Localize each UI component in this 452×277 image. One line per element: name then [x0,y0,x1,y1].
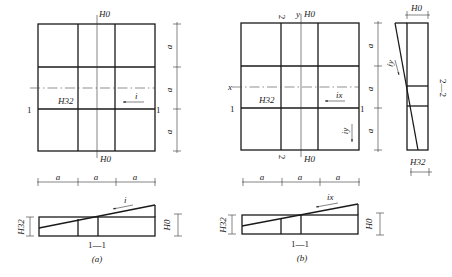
dimension-right-b [374,21,382,152]
section-2-2-b [395,11,432,176]
label-slope-ix-b: ix [336,90,343,100]
dim-b-right-2: a [365,86,375,91]
section-mark-1-right-b: 1 [360,104,365,114]
section-title-a: 1—1 [88,240,106,250]
dim-a-bottom-3: a [133,172,138,182]
section-1-1-a [26,205,182,236]
plan-grid-a [30,15,155,158]
label-slope-i-a: i [135,91,138,101]
caption-a: (a) [92,254,103,264]
dim-b-right-3: a [365,128,375,133]
section-mark-1-left-b: 1 [230,104,235,114]
label-h32-a: H32 [57,96,74,106]
section-mark-1-left-a: 1 [27,105,32,115]
label-h32-b: H32 [258,95,275,105]
slope-iy-section-arrow-icon [395,60,399,75]
caption-b: (b) [297,253,308,263]
slope-arrow-section-icon-a [113,205,133,209]
label-h32-section-b: H32 [218,217,228,234]
label-iy-section-2-2: iy [384,59,395,68]
dim-a-right-3: a [164,129,174,134]
dim-a-right-1: a [164,44,174,49]
panel-a: H0 H0 H32 1 1 i a a a a a a [16,9,182,264]
axis-y-label-b: y [295,9,300,19]
dim-a-bottom-1: a [56,172,61,182]
dimension-right-a [173,22,181,153]
slope-ix-section-arrow-icon-b [316,203,338,207]
label-h0-bottom-a: H0 [99,154,111,164]
section-title-2-2: 2—2 [438,79,448,97]
section-mark-1-right-a: 1 [156,105,161,115]
panel-b: y H0 H0 x H32 1 1 2 2 ix iy a a a [218,3,448,263]
label-h32-section-a: H32 [16,219,26,236]
label-ix-section-b: ix [327,192,334,202]
label-h0-top-a: H0 [98,9,110,19]
label-h0-top-b: H0 [303,9,315,19]
dim-a-right-2: a [164,87,174,92]
label-h0-section-2-2: H0 [410,3,422,13]
label-h0-section-a: H0 [162,219,172,231]
dim-b-bottom-3: a [336,172,341,182]
dim-b-bottom-1: a [260,172,265,182]
dim-a-bottom-2: a [94,172,99,182]
plan-grid-b [232,14,359,157]
section-mark-2-top-b: 2 [277,15,287,20]
label-slope-iy-b: iy [340,128,350,135]
figure-canvas: H0 H0 H32 1 1 i a a a a a a [0,0,452,277]
dim-b-right-1: a [365,43,375,48]
label-slope-section-a: i [124,195,127,205]
axis-x-label-b: x [227,82,232,92]
section-1-1-b [228,204,384,235]
dim-b-bottom-2: a [298,172,303,182]
label-h0-section-b: H0 [364,218,374,230]
label-h32-section-2-2: H32 [409,157,426,167]
label-h0-bottom-b: H0 [303,154,315,164]
section-title-b: 1—1 [291,239,309,249]
section-mark-2-bottom-b: 2 [277,155,287,160]
